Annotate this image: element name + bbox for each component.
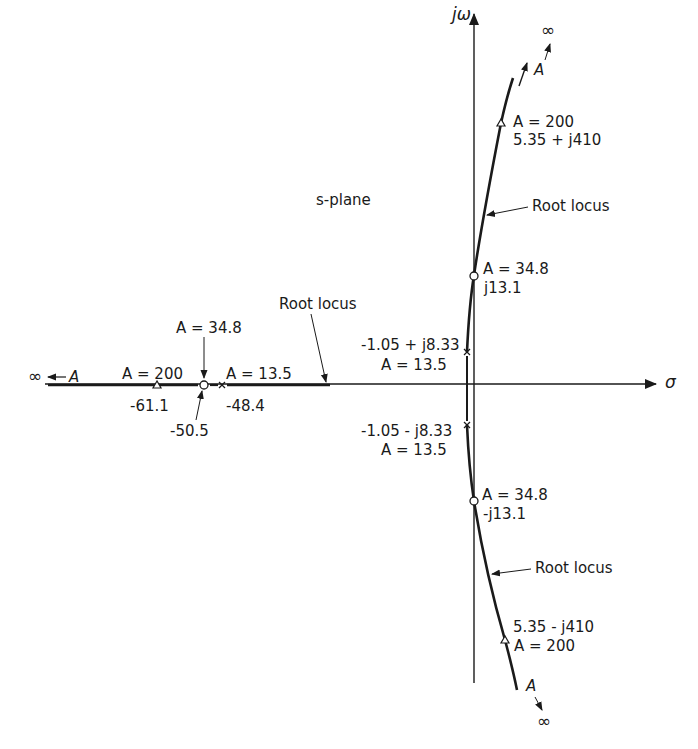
lower-circle-value: -j13.1 — [483, 506, 526, 523]
lower-rootlocus-label: Root locus — [535, 560, 613, 577]
upper-pole-gain: A = 13.5 — [381, 357, 447, 374]
diagram-canvas — [0, 0, 698, 749]
lower-circle-gain: A = 34.8 — [482, 487, 548, 504]
lower-triangle-value: 5.35 - j410 — [513, 619, 594, 636]
real-triangle-gain: A = 200 — [122, 366, 183, 383]
lower-pole-gain: A = 13.5 — [381, 442, 447, 459]
bottom-infinity-arrow — [535, 697, 542, 710]
real-pole-marker — [219, 382, 225, 388]
real-rootlocus-label: Root locus — [279, 296, 357, 313]
real-pole-gain: A = 13.5 — [226, 366, 292, 383]
real-circle-value: -50.5 — [170, 423, 209, 440]
upper-crossing-marker — [470, 272, 478, 280]
left-A-label: A — [69, 369, 79, 386]
upper-pole-value: -1.05 + j8.33 — [361, 337, 459, 354]
circle-value-pointer — [196, 391, 202, 420]
upper-circle-value: j13.1 — [484, 280, 522, 297]
real-rootlocus-pointer — [311, 314, 326, 382]
lower-triangle-gain: A = 200 — [514, 638, 575, 655]
imaginary-axis-label: jω — [452, 6, 471, 23]
real-circle-gain: A = 34.8 — [176, 320, 242, 337]
lower-rootlocus-pointer — [492, 569, 531, 574]
upper-triangle-gain: A = 200 — [513, 114, 574, 131]
real-triangle-value: -61.1 — [130, 398, 169, 415]
top-infinity-arrow — [545, 44, 550, 60]
upper-circle-gain: A = 34.8 — [483, 261, 549, 278]
real-circle-marker — [200, 381, 208, 389]
bottom-infinity-label: ∞ — [537, 713, 551, 730]
real-axis-label: σ — [665, 374, 676, 391]
lower-triangle-marker — [501, 636, 509, 643]
top-infinity-label: ∞ — [541, 22, 555, 39]
lower-pole-value: -1.05 - j8.33 — [361, 423, 452, 440]
root-locus-diagram: jω σ s-plane ∞ A A ∞ ∞ A Root locus Root… — [0, 0, 698, 749]
top-A-label: A — [534, 62, 544, 79]
upper-triangle-marker — [497, 119, 505, 126]
left-infinity-label: ∞ — [28, 368, 42, 385]
upper-triangle-value: 5.35 + j410 — [513, 132, 601, 149]
upper-rootlocus-pointer — [487, 207, 528, 215]
lower-crossing-marker — [470, 497, 478, 505]
real-pole-value: -48.4 — [226, 398, 265, 415]
bottom-A-label: A — [526, 678, 536, 695]
upper-rootlocus-label: Root locus — [532, 198, 610, 215]
top-direction-arrow — [519, 63, 527, 86]
plane-label: s-plane — [316, 192, 371, 209]
